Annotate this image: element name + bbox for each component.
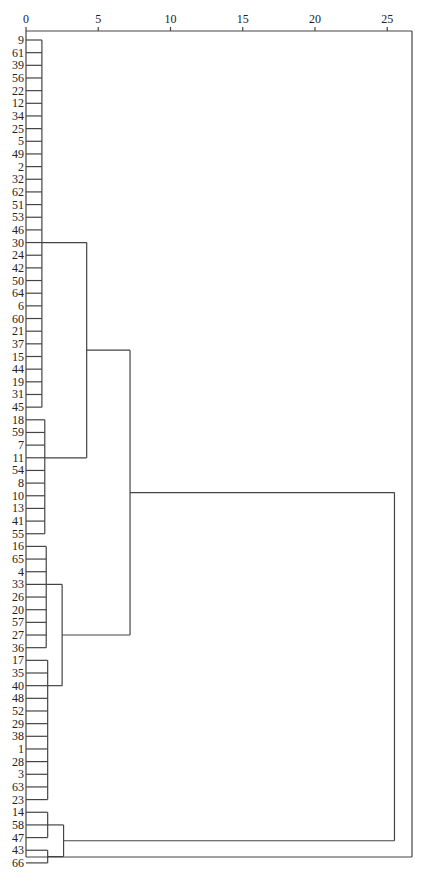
leaf-label: 66 [12,856,24,870]
leaf-labels: 9613956221234255492326251534630244250646… [12,33,24,870]
x-tick-label: 5 [95,12,101,26]
dendrogram-chart: 0510152025 96139562212342554923262515346… [0,0,427,872]
x-tick-label: 10 [165,12,177,26]
x-tick-label: 25 [381,12,393,26]
dendrogram-plot: 0510152025 96139562212342554923262515346… [0,0,427,872]
x-tick-label: 0 [23,12,29,26]
x-tick-label: 20 [309,12,321,26]
dendrogram-lines [26,31,412,863]
x-tick-label: 15 [237,12,249,26]
x-axis: 0510152025 [23,12,393,31]
